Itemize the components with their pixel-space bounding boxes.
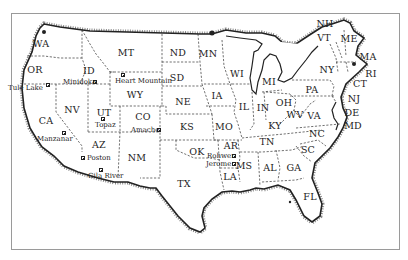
state-label-mi: MI [262,77,276,87]
state-label-co: CO [135,112,150,122]
state-label-sc: SC [301,145,315,155]
camp-label-gila-river: Gila River [88,173,123,180]
state-label-al: AL [263,163,277,173]
lake-superior-mark [210,31,215,36]
state-label-de: DE [345,108,360,118]
state-label-nm: NM [128,153,146,163]
state-label-ca: CA [39,116,54,126]
camp-label-tule-lake: Tule Lake [8,85,43,92]
state-label-wy: WY [127,90,143,100]
camp-label-heart-mountain: Heart Mountain [115,78,172,85]
lake-okeechobee-mark [289,201,291,203]
camp-marker-icon [46,83,50,87]
state-label-wi: WI [230,69,244,79]
state-label-ne: NE [175,97,191,107]
state-label-la: LA [223,172,237,182]
state-label-vt: VT [317,33,331,43]
state-label-wa: WA [33,39,50,49]
state-label-az: AZ [92,140,106,150]
state-label-fl: FL [303,192,316,202]
state-label-nh: NH [317,19,334,29]
state-label-pa: PA [306,85,319,95]
state-label-mo: MO [215,122,233,132]
camp-label-amache: Amache [131,127,159,134]
camp-label-manzanar: Manzanar [37,136,73,143]
state-label-id: ID [83,66,95,76]
state-label-ri: RI [365,69,376,79]
state-label-ct: CT [353,79,367,89]
state-label-ia: IA [211,91,222,101]
camp-label-topaz: Topaz [95,122,116,129]
state-label-ok: OK [189,147,204,157]
state-label-va: VA [307,111,320,121]
camp-label-jerome: Jerome [206,161,231,168]
state-label-wv: WV [286,110,303,120]
camp-label-minidoka: Minidoka [63,79,96,86]
state-label-ar: AR [224,141,238,151]
state-label-tx: TX [177,179,191,189]
camp-marker-icon [81,156,85,160]
state-label-in: IN [257,103,269,113]
state-label-or: OR [27,65,42,75]
camp-marker-icon [232,162,236,166]
state-label-tn: TN [259,137,274,147]
state-label-ga: GA [287,163,302,173]
state-label-mn: MN [199,49,217,59]
state-label-il: IL [239,102,249,112]
state-label-md: MD [344,121,362,131]
state-label-nv: NV [64,105,80,115]
state-label-nd: ND [170,48,186,58]
state-label-nc: NC [309,129,325,139]
state-label-ny: NY [320,65,335,75]
state-label-mt: MT [118,48,134,58]
state-label-ky: KY [268,121,282,131]
state-label-me: ME [340,34,357,44]
camp-label-rohwer: Rohwer [207,153,234,160]
cape-cod-mark [352,62,356,66]
state-label-ma: MA [360,52,377,62]
puget-sound-mark [42,30,46,34]
state-label-oh: OH [276,98,292,108]
state-label-ks: KS [180,122,194,132]
state-label-nj: NJ [348,94,361,104]
state-label-ms: MS [236,161,253,171]
camp-label-poston: Poston [87,155,111,162]
